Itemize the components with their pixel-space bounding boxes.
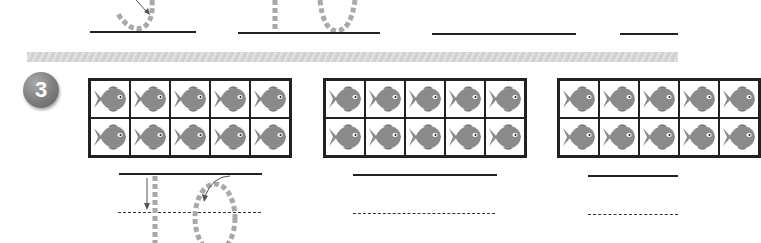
frame-cell [365, 80, 405, 118]
writing-line-mid-3 [588, 214, 678, 215]
ten-frame-3 [557, 78, 761, 158]
fish-icon [367, 122, 403, 152]
fish-icon [327, 122, 363, 152]
frame-cell [599, 80, 639, 118]
fish-icon [172, 122, 208, 152]
section-divider [27, 52, 678, 62]
frame-cell [599, 118, 639, 156]
fish-icon [721, 84, 757, 114]
fish-icon [92, 122, 128, 152]
fish-icon [447, 122, 483, 152]
frame-cell [325, 118, 365, 156]
frame-cell [130, 118, 170, 156]
fish-icon [561, 84, 597, 114]
frame-cell [210, 118, 250, 156]
frame-cell [719, 118, 759, 156]
fish-icon [212, 122, 248, 152]
frame-cell [559, 80, 599, 118]
frame-cell [485, 80, 525, 118]
fish-icon [172, 84, 208, 114]
fish-icon [601, 122, 637, 152]
traced-digit-5-bottom [110, 0, 170, 34]
fish-icon [447, 84, 483, 114]
fish-icon [561, 122, 597, 152]
frame-cell [365, 118, 405, 156]
frame-cell [250, 80, 290, 118]
ten-frame-1 [88, 78, 292, 158]
frame-cell [679, 118, 719, 156]
frame-cell [559, 118, 599, 156]
exercise-number-badge: 3 [23, 72, 59, 108]
fish-icon [681, 122, 717, 152]
fish-icon [367, 84, 403, 114]
fish-icon [681, 84, 717, 114]
fish-icon [641, 84, 677, 114]
fish-icon [601, 84, 637, 114]
fish-icon [407, 84, 443, 114]
writing-line-top-2 [353, 174, 497, 176]
fish-icon [487, 84, 523, 114]
frame-cell [170, 118, 210, 156]
fish-icon [487, 122, 523, 152]
answer-line-top-3 [432, 33, 576, 35]
frame-cell [719, 80, 759, 118]
frame-cell [639, 80, 679, 118]
frame-cell [90, 118, 130, 156]
frame-cell [405, 80, 445, 118]
fish-icon [92, 84, 128, 114]
frame-cell [445, 118, 485, 156]
fish-icon [641, 122, 677, 152]
traced-digit-10-bottom [265, 0, 365, 34]
frame-cell [325, 80, 365, 118]
fish-icon [327, 84, 363, 114]
answer-line-top-2 [238, 32, 380, 34]
writing-line-mid-2 [353, 213, 495, 214]
answer-line-top-1 [90, 31, 196, 33]
frame-cell [639, 118, 679, 156]
frame-cell [485, 118, 525, 156]
fish-icon [407, 122, 443, 152]
frame-cell [90, 80, 130, 118]
fish-icon [132, 84, 168, 114]
fish-icon [252, 84, 288, 114]
ten-frame-2 [323, 78, 527, 158]
frame-cell [250, 118, 290, 156]
frame-cell [679, 80, 719, 118]
fish-icon [721, 122, 757, 152]
frame-cell [210, 80, 250, 118]
fish-icon [132, 122, 168, 152]
fish-icon [212, 84, 248, 114]
frame-cell [170, 80, 210, 118]
fish-icon [252, 122, 288, 152]
frame-cell [405, 118, 445, 156]
answer-line-top-4 [620, 33, 678, 35]
frame-cell [445, 80, 485, 118]
traced-digit-10 [135, 170, 245, 243]
writing-line-top-3 [588, 175, 678, 177]
frame-cell [130, 80, 170, 118]
